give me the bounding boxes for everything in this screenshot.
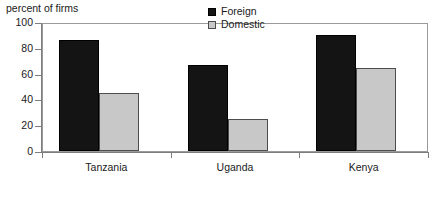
- y-tick-label: 100: [3, 17, 33, 28]
- y-tick-label: 80: [3, 43, 33, 54]
- y-tick-label: 40: [3, 94, 33, 105]
- bar-chart: percent of firms 020406080100 TanzaniaUg…: [0, 0, 437, 206]
- x-tick: [42, 152, 43, 158]
- y-tick-label: 60: [3, 69, 33, 80]
- x-tick-label-kenya: Kenya: [299, 161, 428, 173]
- plot-area: [43, 24, 427, 151]
- domestic-swatch-icon: [208, 21, 216, 29]
- y-tick: [35, 75, 41, 76]
- chart-title: percent of firms: [6, 2, 78, 14]
- bar-kenya-foreign: [316, 35, 356, 151]
- y-tick-label: 20: [3, 120, 33, 131]
- y-tick: [35, 23, 41, 24]
- y-tick: [35, 126, 41, 127]
- legend-label: Domestic: [221, 18, 265, 31]
- bar-uganda-domestic: [228, 119, 268, 151]
- bar-uganda-foreign: [188, 65, 228, 151]
- y-tick: [35, 100, 41, 101]
- bar-tanzania-foreign: [59, 40, 99, 151]
- bar-tanzania-domestic: [99, 93, 139, 151]
- plot-frame: [42, 23, 428, 152]
- legend-item-domestic: Domestic: [208, 18, 265, 31]
- x-tick: [299, 152, 300, 158]
- bar-kenya-domestic: [356, 68, 396, 151]
- x-tick-label-uganda: Uganda: [171, 161, 300, 173]
- legend-label: Foreign: [221, 5, 257, 18]
- foreign-swatch-icon: [208, 8, 216, 16]
- x-tick: [428, 152, 429, 158]
- y-tick-label: 0: [3, 146, 33, 157]
- x-tick-label-tanzania: Tanzania: [42, 161, 171, 173]
- x-tick: [171, 152, 172, 158]
- y-tick: [35, 152, 41, 153]
- y-tick: [35, 49, 41, 50]
- x-axis-line: [42, 152, 429, 153]
- chart-legend: ForeignDomestic: [208, 5, 265, 31]
- legend-item-foreign: Foreign: [208, 5, 265, 18]
